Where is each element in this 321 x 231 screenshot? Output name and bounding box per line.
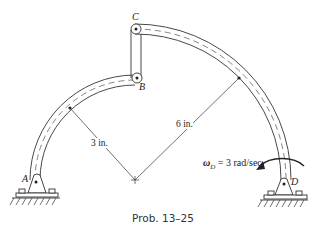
arc-link-ab bbox=[30, 75, 135, 180]
support-a bbox=[10, 174, 60, 205]
label-point-c: C bbox=[132, 11, 139, 22]
angular-velocity-label: ωD = 3 rad/sec bbox=[203, 157, 262, 171]
dimension-large-radius: 6 in. bbox=[176, 119, 193, 129]
mechanism-diagram bbox=[0, 0, 321, 231]
figure-caption: Prob. 13–25 bbox=[132, 212, 194, 224]
omega-value: = 3 rad/sec bbox=[215, 157, 261, 168]
label-point-b: B bbox=[139, 81, 145, 92]
label-point-d: D bbox=[291, 176, 298, 187]
support-d bbox=[258, 178, 308, 207]
label-point-a: A bbox=[22, 173, 28, 184]
dimension-small-radius: 3 in. bbox=[91, 138, 108, 148]
link-bc bbox=[131, 30, 141, 78]
